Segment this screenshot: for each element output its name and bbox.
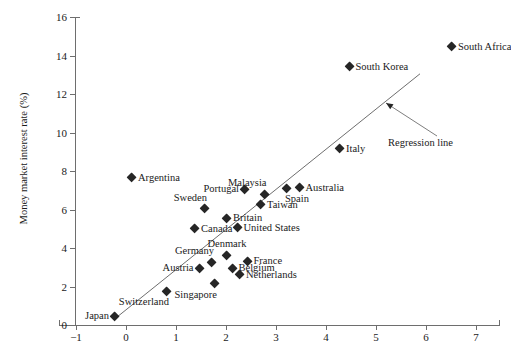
y-tick-label: 14: [27, 51, 67, 62]
y-tick-mark: [70, 248, 75, 249]
diamond-marker-icon: [294, 183, 304, 193]
diamond-marker-icon: [222, 213, 232, 223]
annotation-leader-line: [386, 103, 437, 136]
diamond-marker-icon: [344, 62, 354, 72]
x-tick-label: 3: [261, 332, 291, 343]
data-point-label: South Korea: [356, 61, 409, 72]
x-tick-mark: [76, 325, 77, 330]
diamond-marker-icon: [200, 203, 210, 213]
y-axis-top-cap: [75, 17, 80, 18]
diamond-marker-icon: [194, 263, 204, 273]
y-tick-label: 6: [27, 205, 67, 216]
y-axis-title: Money market interest rate (%): [18, 44, 29, 274]
y-axis-line: [75, 17, 76, 326]
data-point-label: Netherlands: [246, 269, 297, 280]
diamond-marker-icon: [127, 173, 137, 183]
data-point-label: Austria: [163, 262, 194, 273]
x-tick-label: 0: [111, 332, 141, 343]
diamond-marker-icon: [207, 257, 217, 267]
diamond-marker-icon: [335, 144, 345, 154]
data-point-label: Malaysia: [228, 177, 267, 188]
data-point-label: Denmark: [207, 238, 246, 249]
y-tick-mark: [70, 94, 75, 95]
y-tick-mark: [70, 171, 75, 172]
y-tick-label: 4: [27, 243, 67, 254]
diamond-marker-icon: [232, 223, 242, 233]
y-tick-label: 0: [27, 320, 67, 331]
x-tick-mark: [226, 325, 227, 330]
y-tick-mark: [70, 133, 75, 134]
data-point-label: Argentina: [138, 172, 180, 183]
data-point-label: Switzerland: [119, 296, 169, 307]
diamond-marker-icon: [222, 250, 232, 260]
y-tick-mark: [70, 210, 75, 211]
diamond-marker-icon: [162, 286, 172, 296]
x-tick-mark: [476, 325, 477, 330]
x-tick-mark: [376, 325, 377, 330]
x-tick-label: 1: [161, 332, 191, 343]
diamond-marker-icon: [110, 311, 120, 321]
y-tick-mark: [70, 287, 75, 288]
data-point-label: Singapore: [174, 289, 217, 300]
x-axis-right-cap: [499, 320, 500, 326]
data-point-label: Japan: [85, 310, 109, 321]
y-tick-mark: [70, 17, 75, 18]
data-point-label: Sweden: [174, 192, 207, 203]
data-point-label: South Africa: [458, 41, 511, 52]
x-tick-mark: [176, 325, 177, 330]
y-tick-mark: [70, 325, 75, 326]
x-tick-label: 5: [361, 332, 391, 343]
diamond-marker-icon: [190, 224, 200, 234]
data-point-label: Canada: [201, 223, 233, 234]
x-tick-mark: [276, 325, 277, 330]
y-tick-label: 16: [27, 12, 67, 23]
x-tick-label: 7: [461, 332, 491, 343]
data-point-label: United States: [244, 222, 300, 233]
y-tick-label: 8: [27, 166, 67, 177]
y-tick-label: 12: [27, 89, 67, 100]
annotation-arrowhead: [386, 103, 394, 109]
x-tick-label: −1: [61, 332, 91, 343]
diamond-marker-icon: [210, 279, 220, 289]
data-point-label: Italy: [346, 143, 365, 154]
data-point-label: Spain: [285, 193, 309, 204]
x-tick-mark: [126, 325, 127, 330]
y-tick-label: 2: [27, 282, 67, 293]
diamond-marker-icon: [447, 42, 457, 52]
diamond-marker-icon: [256, 200, 266, 210]
x-tick-mark: [426, 325, 427, 330]
x-tick-label: 6: [411, 332, 441, 343]
regression-line-annotation-label: Regression line: [388, 137, 453, 148]
x-tick-mark: [326, 325, 327, 330]
y-tick-mark: [70, 56, 75, 57]
data-point-label: Australia: [306, 182, 345, 193]
x-tick-label: 2: [211, 332, 241, 343]
x-tick-label: 4: [311, 332, 341, 343]
data-point-label: France: [254, 255, 283, 266]
y-tick-label: 10: [27, 128, 67, 139]
diamond-marker-icon: [282, 183, 292, 193]
